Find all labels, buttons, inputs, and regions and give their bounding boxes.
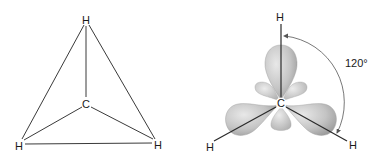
bond-c-h-bottom-left xyxy=(24,107,82,140)
small-lobe-bottom xyxy=(271,107,291,131)
atom-label-h-bottom-left: H xyxy=(206,141,214,153)
atom-label-h-bottom-right: H xyxy=(154,139,162,151)
edge-top-to-bottom-left xyxy=(22,25,84,139)
atom-label-h-top: H xyxy=(82,14,90,26)
atom-label-c: C xyxy=(82,98,90,110)
right-orbital-diagram: H C H H 120° xyxy=(206,11,368,153)
atom-label-h-top: H xyxy=(276,11,284,23)
arc-arrowhead-top xyxy=(283,34,288,39)
left-tetrahedron-diagram: H C H H xyxy=(15,14,162,152)
atom-label-c: C xyxy=(277,97,285,109)
bond-c-h-bottom-right xyxy=(91,107,153,139)
atom-label-h-bottom-left: H xyxy=(15,140,23,152)
diagram-canvas: H C H H H xyxy=(0,0,383,158)
edge-bottom xyxy=(25,143,152,144)
angle-label: 120° xyxy=(345,57,368,69)
edge-top-to-bottom-right xyxy=(89,25,155,139)
atom-label-h-bottom-right: H xyxy=(349,139,357,151)
